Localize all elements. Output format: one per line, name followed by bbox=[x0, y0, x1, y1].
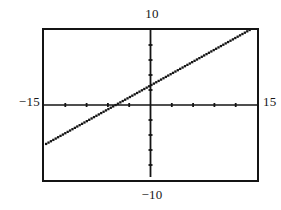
plot-pixel bbox=[114, 104, 116, 106]
plot-pixel bbox=[193, 60, 195, 62]
plot-pixel bbox=[146, 86, 148, 88]
plot-pixel bbox=[59, 135, 61, 137]
plot-pixel bbox=[124, 99, 126, 101]
plot-pixel bbox=[138, 91, 140, 93]
calculator-graph-screen: 10 −15 15 −10 bbox=[0, 0, 281, 210]
plot-pixel bbox=[62, 133, 64, 135]
plot-pixel bbox=[239, 34, 241, 36]
plot-pixel bbox=[208, 52, 210, 54]
plot-pixel bbox=[153, 82, 155, 84]
plot-pixel bbox=[136, 92, 138, 94]
plot-pixel bbox=[232, 38, 234, 40]
plot-pixel bbox=[74, 127, 76, 129]
plot-pixel bbox=[98, 113, 100, 115]
y-max-label: 10 bbox=[139, 7, 165, 20]
plot-pixel bbox=[110, 107, 112, 109]
plot-pixel bbox=[201, 56, 203, 58]
plot-pixel bbox=[220, 45, 222, 47]
plot-pixel bbox=[143, 88, 145, 90]
plot-frame bbox=[42, 28, 259, 182]
plot-pixel bbox=[55, 137, 57, 139]
plot-pixel bbox=[205, 53, 207, 55]
plot-pixel bbox=[172, 72, 174, 74]
plot-pixel bbox=[90, 117, 92, 119]
plot-pixel bbox=[191, 61, 193, 63]
plot-pixel bbox=[198, 57, 200, 59]
plot-series bbox=[45, 30, 253, 145]
plot-pixel bbox=[229, 40, 231, 42]
plot-pixel bbox=[215, 48, 217, 50]
plot-pixel bbox=[88, 119, 90, 121]
plot-pixel bbox=[162, 77, 164, 79]
plot-pixel bbox=[50, 140, 52, 142]
plot-surface bbox=[44, 30, 257, 180]
plot-pixel bbox=[210, 50, 212, 52]
plot-pixel bbox=[155, 81, 157, 83]
plot-pixel bbox=[169, 73, 171, 75]
plot-pixel bbox=[225, 42, 227, 44]
plot-pixel bbox=[217, 46, 219, 48]
plot-pixel bbox=[141, 89, 143, 91]
plot-pixel bbox=[165, 76, 167, 78]
plot-pixel bbox=[196, 58, 198, 60]
plot-pixel bbox=[107, 108, 109, 110]
plot-pixel bbox=[179, 68, 181, 70]
plot-pixel bbox=[203, 54, 205, 56]
plot-pixel bbox=[158, 80, 160, 82]
plot-pixel bbox=[57, 136, 59, 138]
plot-pixel bbox=[246, 30, 248, 32]
plot-pixel bbox=[64, 132, 66, 134]
plot-pixel bbox=[100, 112, 102, 114]
plot-pixel bbox=[222, 44, 224, 46]
series-layer bbox=[45, 30, 253, 145]
plot-pixel bbox=[129, 96, 131, 98]
plot-pixel bbox=[119, 101, 121, 103]
plot-pixel bbox=[160, 78, 162, 80]
plot-pixel bbox=[126, 97, 128, 99]
plot-pixel bbox=[184, 65, 186, 67]
plot-pixel bbox=[76, 125, 78, 127]
plot-pixel bbox=[86, 120, 88, 122]
plot-pixel bbox=[248, 30, 250, 31]
plot-pixel bbox=[186, 64, 188, 66]
plot-pixel bbox=[81, 123, 83, 125]
plot-pixel bbox=[241, 33, 243, 35]
y-min-label: −10 bbox=[134, 188, 170, 201]
plot-pixel bbox=[227, 41, 229, 43]
plot-pixel bbox=[79, 124, 81, 126]
plot-pixel bbox=[45, 143, 47, 145]
plot-pixel bbox=[234, 37, 236, 39]
x-max-label: 15 bbox=[263, 95, 281, 108]
plot-pixel bbox=[83, 121, 85, 123]
plot-pixel bbox=[167, 74, 169, 76]
plot-pixel bbox=[189, 62, 191, 64]
plot-pixel bbox=[122, 100, 124, 102]
plot-pixel bbox=[213, 49, 215, 51]
x-min-label: −15 bbox=[10, 95, 40, 108]
plot-pixel bbox=[181, 66, 183, 68]
plot-pixel bbox=[47, 141, 49, 143]
plot-pixel bbox=[148, 85, 150, 87]
plot-pixel bbox=[105, 109, 107, 111]
plot-pixel bbox=[67, 131, 69, 133]
plot-pixel bbox=[71, 128, 73, 130]
plot-pixel bbox=[131, 95, 133, 97]
plot-pixel bbox=[102, 111, 104, 113]
plot-pixel bbox=[52, 139, 54, 141]
plot-pixel bbox=[95, 115, 97, 117]
plot-pixel bbox=[117, 103, 119, 105]
plot-pixel bbox=[112, 105, 114, 107]
plot-pixel bbox=[244, 32, 246, 34]
plot-pixel bbox=[134, 93, 136, 95]
plot-pixel bbox=[69, 129, 71, 131]
plot-pixel bbox=[174, 70, 176, 72]
plot-pixel bbox=[237, 36, 239, 38]
plot-pixel bbox=[93, 116, 95, 118]
plot-pixel bbox=[150, 84, 152, 86]
axes-layer bbox=[44, 30, 257, 177]
plot-pixel bbox=[177, 69, 179, 71]
